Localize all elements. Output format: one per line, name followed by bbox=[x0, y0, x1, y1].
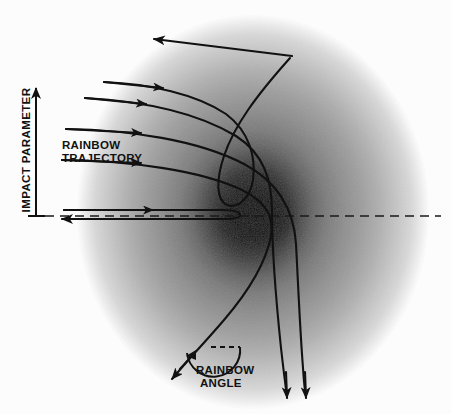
impact-parameter-label: IMPACT PARAMETER bbox=[20, 87, 32, 212]
diagram-canvas: IMPACT PARAMETER bbox=[0, 0, 451, 414]
trajectory-3-exit-arrow bbox=[305, 372, 306, 398]
trajectory-2-exit-arrow bbox=[286, 372, 287, 398]
nucleus-sphere bbox=[77, 15, 429, 409]
rainbow-angle-label-line2: ANGLE bbox=[200, 377, 242, 389]
rainbow-scattering-figure: IMPACT PARAMETER bbox=[0, 0, 451, 414]
rainbow-trajectory-label-line1: RAINBOW bbox=[62, 139, 120, 151]
rainbow-trajectory-label-line2: TRAJECTORY bbox=[62, 152, 142, 164]
rainbow-angle-label-line1: RAINBOW bbox=[196, 364, 254, 376]
